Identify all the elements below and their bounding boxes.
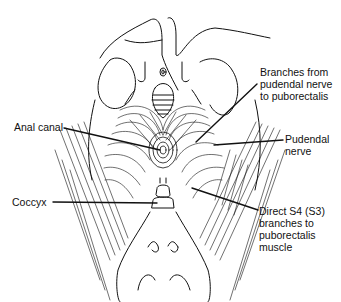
label-coccyx: Coccyx [12,196,46,208]
leader-pudendal-nerve [214,140,283,145]
midline-structures [125,62,201,118]
leader-branches-pudendal [196,84,257,142]
leader-anal-canal [64,128,160,150]
label-anal-canal: Anal canal [14,121,63,133]
levator-fibers [104,106,224,198]
nerve-bundles [55,122,285,300]
leader-lines [53,84,283,210]
leader-coccyx [53,202,157,203]
anal-canal-rings [149,132,177,168]
label-branches-from-pudendal-nerve: Branches from pudendal nerve to puborect… [260,66,332,102]
label-direct-s4-branches: Direct S4 (S3) branches to puborectalis … [259,205,325,253]
label-pudendal-nerve: Pudendal nerve [285,133,329,157]
sacrum-outline [117,212,211,302]
